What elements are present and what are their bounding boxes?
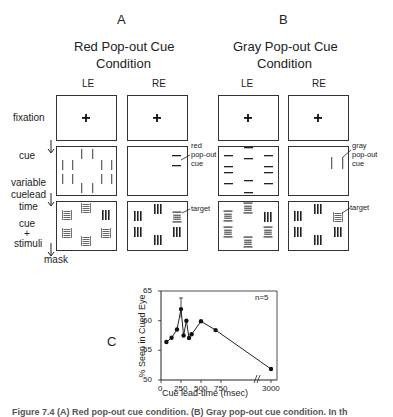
figure-caption: Figure 7.4 (A) Red pop-out cue condition…: [12, 407, 347, 417]
red-cue-annotation-3: cue: [191, 159, 203, 168]
x-tick-3000: 3000: [262, 384, 280, 393]
y-axis-label: % Seen in Cued Eye: [137, 286, 147, 386]
line-chart: 65 60 55 50 0 250 500 750 3000 n=5 % See…: [130, 285, 300, 395]
fixation-cross-icon: [82, 114, 322, 122]
red-target-annotation: target: [191, 204, 210, 213]
red-cue-annotation-1: red: [191, 141, 202, 150]
gray-cue-annotation-3: cue: [352, 159, 364, 168]
gray-cue-annotation-2: pop-out: [352, 150, 377, 159]
panel-c-letter: C: [107, 334, 116, 349]
red-cue-annotation-2: pop-out: [191, 150, 216, 159]
sample-size-label: n=5: [255, 293, 269, 302]
x-axis-label: Cue lead-time (msec): [162, 388, 248, 398]
gray-cue-annotation-1: gray: [352, 141, 367, 150]
chart-plot: [130, 285, 300, 395]
gray-target-annotation: target: [350, 203, 369, 212]
